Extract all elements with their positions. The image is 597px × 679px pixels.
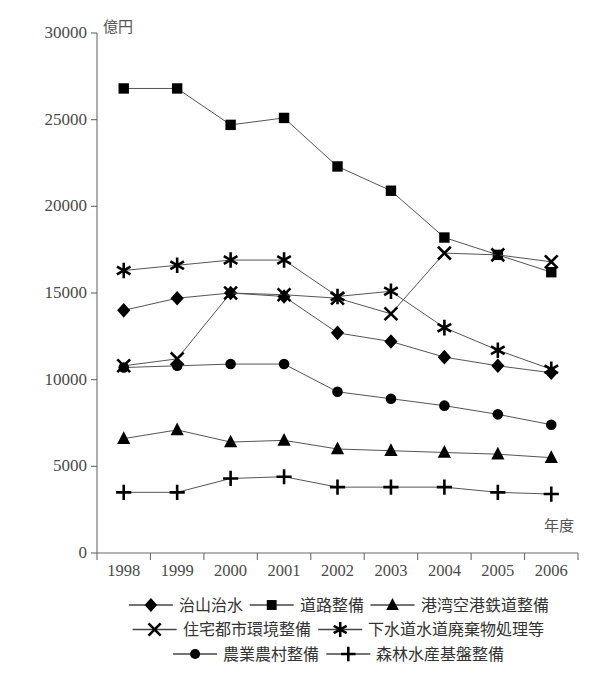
legend-item[interactable]: 住宅都市環境整備 <box>133 620 311 639</box>
legend-item[interactable]: 港湾空港鉄道整備 <box>371 596 549 615</box>
marker-square <box>172 83 182 93</box>
marker-diamond <box>145 598 158 612</box>
marker-plus <box>383 480 398 495</box>
marker-triangle <box>545 450 558 463</box>
legend-label: 住宅都市環境整備 <box>183 620 311 639</box>
y-axis-unit-label: 億円 <box>103 18 133 36</box>
marker-asterisk <box>438 320 452 336</box>
y-tick-label: 20000 <box>45 196 88 215</box>
marker-circle <box>225 359 236 370</box>
marker-plus <box>544 486 559 501</box>
series-7 <box>116 469 559 502</box>
marker-circle <box>546 419 557 430</box>
marker-triangle <box>384 443 397 456</box>
x-tick-label: 2004 <box>428 561 461 580</box>
x-tick-label: 2002 <box>321 561 354 580</box>
legend-label: 道路整備 <box>300 596 364 615</box>
marker-cross <box>385 307 398 320</box>
x-tick-label: 2003 <box>374 561 407 580</box>
x-tick-label: 2005 <box>481 561 514 580</box>
marker-triangle <box>386 598 399 610</box>
marker-diamond <box>117 303 130 318</box>
legend-label: 農業農村整備 <box>223 645 319 664</box>
marker-circle <box>332 387 343 398</box>
legend-label: 森林水産基盤整備 <box>376 645 504 664</box>
marker-plus <box>276 469 291 484</box>
marker-square <box>225 120 235 130</box>
marker-diamond <box>384 334 397 349</box>
marker-square <box>267 600 277 610</box>
marker-triangle <box>438 445 451 458</box>
y-tick-label: 10000 <box>45 370 88 389</box>
legend-item[interactable]: 道路整備 <box>250 596 364 615</box>
marker-square <box>279 113 289 123</box>
y-tick-label: 0 <box>79 543 88 562</box>
marker-circle <box>386 393 397 404</box>
x-tick-label: 1999 <box>161 561 194 580</box>
marker-diamond <box>331 326 344 341</box>
marker-cross <box>545 255 558 268</box>
line-chart-figure: 0500010000150002000025000300001998199920… <box>0 0 597 679</box>
marker-circle <box>493 409 504 420</box>
legend-item[interactable]: 治山治水 <box>129 596 243 615</box>
marker-square <box>439 232 449 242</box>
marker-plus <box>116 485 131 500</box>
legend-item[interactable]: 農業農村整備 <box>173 645 319 664</box>
y-tick-label: 15000 <box>45 283 88 302</box>
marker-triangle <box>277 433 290 446</box>
series-line <box>124 88 552 272</box>
y-tick-label: 30000 <box>45 23 88 42</box>
legend-item[interactable]: 下水道水道廃棄物処理等 <box>318 620 544 639</box>
marker-circle <box>190 649 200 659</box>
marker-diamond <box>491 359 504 374</box>
marker-diamond <box>171 291 184 306</box>
x-tick-label: 2001 <box>268 561 301 580</box>
x-tick-label: 1998 <box>107 561 140 580</box>
marker-square <box>119 83 129 93</box>
series-6 <box>118 359 556 430</box>
series-line <box>124 260 552 369</box>
marker-circle <box>439 400 450 411</box>
marker-plus <box>170 485 185 500</box>
marker-circle <box>118 362 129 373</box>
marker-triangle <box>491 447 504 460</box>
marker-triangle <box>171 423 184 436</box>
marker-plus <box>490 485 505 500</box>
marker-diamond <box>438 350 451 365</box>
marker-square <box>386 186 396 196</box>
y-tick-label: 5000 <box>53 456 87 475</box>
marker-asterisk <box>491 342 505 358</box>
x-tick-label: 2000 <box>214 561 247 580</box>
legend-label: 治山治水 <box>179 596 243 615</box>
marker-square <box>332 161 342 171</box>
marker-plus <box>223 471 238 486</box>
series-2 <box>119 83 557 277</box>
series-3 <box>117 423 558 463</box>
legend-item[interactable]: 森林水産基盤整備 <box>326 645 504 664</box>
marker-plus <box>330 480 345 495</box>
legend-label: 下水道水道廃棄物処理等 <box>368 620 544 639</box>
chart-canvas: 0500010000150002000025000300001998199920… <box>0 0 597 679</box>
marker-square <box>546 267 556 277</box>
legend-label: 港湾空港鉄道整備 <box>421 596 549 615</box>
marker-circle <box>172 361 183 372</box>
x-axis-name-label: 年度 <box>544 517 574 535</box>
marker-circle <box>279 359 290 370</box>
series-line <box>124 253 552 366</box>
series-5 <box>117 252 558 377</box>
marker-plus <box>437 480 452 495</box>
y-tick-label: 25000 <box>45 110 88 129</box>
x-tick-label: 2006 <box>535 561 568 580</box>
marker-plus <box>341 647 355 661</box>
